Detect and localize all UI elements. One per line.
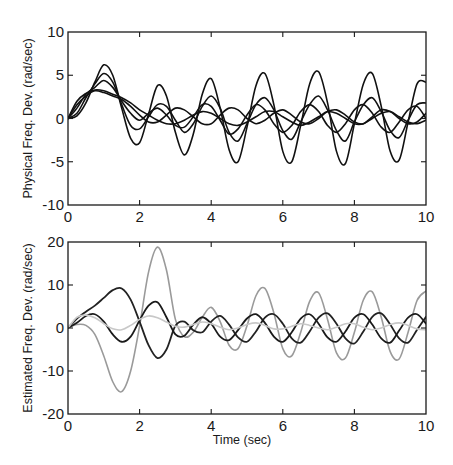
y-tick-label: -20 <box>42 405 64 422</box>
x-tick-label: 10 <box>418 208 435 225</box>
x-tick-label: 0 <box>64 417 72 434</box>
physical-y-axis-label: Physical Freq. Dev. (rad/sec) <box>21 38 35 198</box>
estimated-freq-plot: 0246810 -20-1001020 Estimated Freq. Dev.… <box>21 233 434 447</box>
y-tick-label: 10 <box>47 276 64 293</box>
x-tick-label: 2 <box>135 208 143 225</box>
estimated-x-tick-labels: 0246810 <box>64 417 435 434</box>
y-tick-label: -10 <box>42 196 64 213</box>
x-tick-label: 4 <box>207 208 215 225</box>
x-tick-label: 10 <box>418 417 435 434</box>
y-tick-label: 5 <box>56 66 64 83</box>
physical-series-layer <box>68 65 426 165</box>
y-tick-label: 0 <box>56 319 64 336</box>
estimated-series-layer <box>68 247 426 392</box>
physical-x-tick-labels: 0246810 <box>64 208 435 225</box>
series-estimate-2 <box>68 288 426 358</box>
estimated-y-axis-label: Estimated Freq. Dev. (rad/sec) <box>21 243 35 412</box>
y-tick-label: -5 <box>51 153 64 170</box>
x-tick-label: 4 <box>207 417 215 434</box>
x-tick-label: 6 <box>279 208 287 225</box>
x-tick-label: 8 <box>350 417 358 434</box>
x-tick-label: 2 <box>135 417 143 434</box>
y-tick-label: 10 <box>47 23 64 40</box>
y-tick-label: -10 <box>42 362 64 379</box>
physical-freq-plot: 0246810 -10-50510 Physical Freq. Dev. (r… <box>21 23 434 225</box>
x-tick-label: 0 <box>64 208 72 225</box>
x-tick-label: 8 <box>350 208 358 225</box>
figure: 0246810 -10-50510 Physical Freq. Dev. (r… <box>0 0 453 465</box>
y-tick-label: 0 <box>56 110 64 127</box>
x-tick-label: 6 <box>279 417 287 434</box>
estimated-y-tick-labels: -20-1001020 <box>42 233 64 422</box>
series-estimate-3 <box>68 301 426 342</box>
time-x-axis-label: Time (sec) <box>213 433 272 447</box>
y-tick-label: 20 <box>47 233 64 250</box>
physical-y-tick-labels: -10-50510 <box>42 23 64 213</box>
